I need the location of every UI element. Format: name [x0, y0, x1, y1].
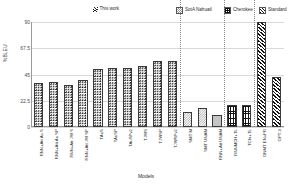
x-axis-tick-label: RNN+Att Au SP	[55, 129, 59, 159]
x-axis-tick-label: SMT UNAM	[204, 129, 208, 152]
y-axis-tick-label: 45	[4, 72, 30, 78]
bar[interactable]	[49, 82, 58, 128]
bar[interactable]	[108, 68, 117, 128]
bar[interactable]	[212, 115, 221, 127]
bar[interactable]	[227, 105, 236, 127]
y-axis-ticks: 022.54567.590	[0, 0, 30, 187]
x-axis-tick-label: GPT-3	[278, 129, 282, 141]
x-axis-tick-label: TAuS	[100, 129, 104, 139]
y-axis-tick-label: 0	[4, 124, 30, 130]
bar[interactable]	[242, 105, 251, 127]
y-axis-tick-label: 22.5	[4, 98, 30, 104]
x-axis-tick-label: TAuSPv2	[129, 129, 133, 147]
bar[interactable]	[64, 85, 73, 127]
bar[interactable]	[138, 66, 147, 127]
bar[interactable]	[183, 112, 192, 127]
x-axis-tick-label: RNNMCH+TL	[234, 129, 238, 156]
x-axis-tick-label: RNN+Att JW S	[70, 129, 74, 158]
x-axis-tick-label: RNN+Att JW SP	[85, 129, 89, 160]
bar[interactable]	[153, 61, 162, 128]
x-axis-tick-label: GNMT EN+FR	[263, 129, 267, 157]
x-axis-tick-label: SMT M	[189, 129, 193, 143]
x-axis-tick-label: TJWSP	[159, 129, 163, 144]
x-axis-title: Models	[0, 173, 292, 179]
chart-root: This work SotA Nahuatl Cherokee Standard…	[0, 0, 292, 187]
bar[interactable]	[168, 61, 177, 128]
x-axis-tick-label: TChr+TL	[248, 129, 252, 146]
x-axis-tick-label: RNN+Att UNAM	[219, 129, 223, 160]
plot-area: %BLEU 022.54567.590 RNN+Att Au SRNN+Att …	[0, 0, 292, 187]
x-axis-tick-label: TAuSP	[114, 129, 118, 142]
x-axis-tick-label: TJWS	[144, 129, 148, 141]
bar[interactable]	[34, 83, 43, 127]
bar[interactable]	[272, 77, 281, 127]
bar[interactable]	[93, 69, 102, 127]
x-axis-tick-label: RNN+Att Au S	[40, 129, 44, 156]
y-axis-tick-label: 67.5	[4, 46, 30, 52]
bar[interactable]	[257, 22, 266, 127]
bar-series	[31, 22, 284, 127]
bar[interactable]	[78, 80, 87, 127]
x-axis-tick-labels: RNN+Att Au SRNN+Att Au SPRNN+Att JW SRNN…	[31, 129, 284, 177]
y-axis-tick-label: 90	[4, 19, 30, 25]
grid-area	[31, 22, 284, 127]
bar[interactable]	[123, 68, 132, 128]
bar[interactable]	[198, 108, 207, 127]
x-axis-tick-label: TJWSPv2	[174, 129, 178, 148]
